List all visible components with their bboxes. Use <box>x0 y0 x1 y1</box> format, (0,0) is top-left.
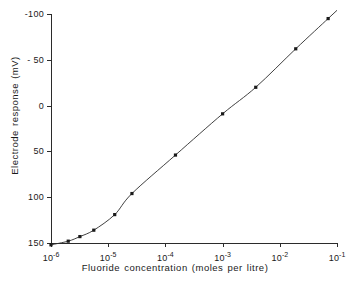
x-tick-exponent: -1 <box>339 251 345 258</box>
data-point-marker <box>294 47 297 50</box>
y-tick-label: 100 <box>0 192 44 202</box>
data-point-marker <box>221 112 224 115</box>
plot-area <box>51 14 337 243</box>
x-tick <box>280 243 281 247</box>
data-point-marker <box>113 213 116 216</box>
y-tick-label: 150 <box>0 238 44 248</box>
series-line <box>51 19 328 245</box>
data-point-marker <box>92 229 95 232</box>
data-point-marker <box>78 235 81 238</box>
x-tick <box>337 243 338 247</box>
y-tick-label: -100 <box>0 9 44 19</box>
chart-figure: -100- 50050100150 10-610-510-410-310-210… <box>0 0 350 281</box>
data-series-layer <box>51 14 337 243</box>
x-tick-exponent: -6 <box>53 251 59 258</box>
x-tick-exponent: -4 <box>167 251 173 258</box>
data-point-marker <box>49 243 52 246</box>
data-point-marker <box>130 192 133 195</box>
y-tick-label: - 50 <box>0 55 44 65</box>
x-tick-exponent: -2 <box>282 251 288 258</box>
data-point-marker <box>327 17 330 20</box>
x-axis-spine <box>51 243 337 244</box>
y-tick-label: 0 <box>0 101 44 111</box>
x-tick <box>165 243 166 247</box>
y-axis-title: Electrode response (mV) <box>9 6 20 226</box>
data-point-marker <box>174 153 177 156</box>
y-tick-label: 50 <box>0 146 44 156</box>
x-tick-exponent: -5 <box>110 251 116 258</box>
data-point-marker <box>67 240 70 243</box>
x-tick <box>108 243 109 247</box>
x-tick-exponent: -3 <box>225 251 231 258</box>
x-tick <box>223 243 224 247</box>
data-point-marker <box>254 86 257 89</box>
x-axis-title: Fluoride concentration (moles per litre) <box>0 262 350 273</box>
